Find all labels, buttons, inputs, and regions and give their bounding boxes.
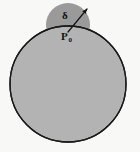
point-p0-subscript: 0 — [69, 36, 73, 44]
figure-container: δ P 0 — [0, 0, 140, 152]
point-p0-label: P — [61, 30, 68, 42]
geometric-diagram: δ P 0 — [0, 0, 140, 152]
delta-label: δ — [62, 9, 68, 21]
